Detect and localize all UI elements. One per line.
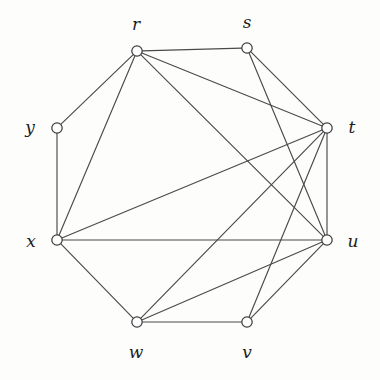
vertex-node-s[interactable] [242,43,252,53]
vertex-label-t: t [349,119,356,136]
vertex-node-r[interactable] [132,46,142,56]
edge-u-v [251,244,324,319]
vertex-node-v[interactable] [242,317,252,327]
vertex-label-u: u [348,233,359,250]
vertex-layer [52,43,332,327]
edge-r-u [141,55,324,237]
vertex-label-w: w [129,344,144,361]
vertex-node-u[interactable] [322,235,332,245]
graph-diagram-figure: rstuvwxy [0,0,380,380]
edge-v-t [249,133,325,317]
edge-layer [57,48,327,322]
edge-r-t [142,53,322,126]
graph-canvas [0,0,380,380]
edge-r-s [142,48,242,51]
vertex-label-r: r [132,16,140,33]
edge-r-x [59,56,135,235]
vertex-label-v: v [242,344,252,361]
edge-w-u [142,242,322,320]
edge-s-t [251,52,324,125]
vertex-label-s: s [243,14,252,31]
vertex-label-x: x [26,233,36,250]
vertex-node-y[interactable] [52,123,62,133]
vertex-label-y: y [25,119,35,136]
edge-w-t [141,132,324,319]
vertex-node-t[interactable] [322,123,332,133]
edge-w-x [61,244,134,319]
edge-x-t [62,130,322,238]
vertex-node-x[interactable] [52,235,62,245]
vertex-node-w[interactable] [132,317,142,327]
edge-y-r [61,55,134,125]
